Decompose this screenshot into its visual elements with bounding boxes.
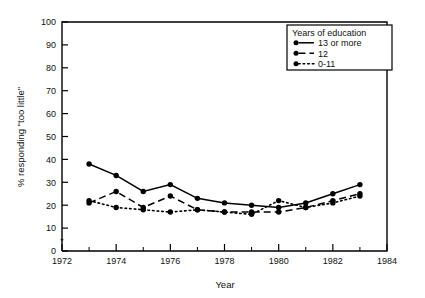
- y-tick-label: 50: [46, 132, 56, 142]
- legend-title: Years of education: [292, 28, 366, 38]
- data-point: [330, 200, 335, 205]
- data-point: [168, 193, 173, 198]
- data-point: [330, 191, 335, 196]
- y-tick-label: 20: [46, 201, 56, 211]
- data-point: [113, 189, 118, 194]
- data-point: [249, 203, 254, 208]
- x-tick-label: 1976: [160, 256, 180, 266]
- x-tick-label: 1978: [214, 256, 234, 266]
- data-point: [168, 182, 173, 187]
- data-point: [276, 209, 281, 214]
- data-point: [276, 198, 281, 203]
- y-tick-label: 90: [46, 40, 56, 50]
- x-tick-label: 1984: [377, 256, 397, 266]
- y-tick-label: 100: [41, 17, 56, 27]
- data-point: [357, 182, 362, 187]
- y-tick-label: 40: [46, 155, 56, 165]
- data-point: [303, 205, 308, 210]
- annotation-layer: *: [60, 236, 64, 246]
- data-point: [113, 173, 118, 178]
- y-tick-label: 70: [46, 86, 56, 96]
- legend-marker-icon: [294, 40, 299, 45]
- line-chart-canvas: 0102030405060708090100 19721974197619781…: [0, 0, 425, 298]
- legend-label: 12: [318, 49, 328, 59]
- legend-label: 0-11: [318, 59, 335, 69]
- data-point: [168, 209, 173, 214]
- data-point: [141, 189, 146, 194]
- data-point: [86, 161, 91, 166]
- chart-figure: 0102030405060708090100 19721974197619781…: [0, 0, 425, 298]
- y-axis-title: % responding "too little": [15, 87, 26, 187]
- y-tick-label: 0: [51, 246, 56, 256]
- data-point: [195, 207, 200, 212]
- data-point: [249, 212, 254, 217]
- y-tick-label: 30: [46, 178, 56, 188]
- x-tick-label: 1980: [269, 256, 289, 266]
- legend-label: 13 or more: [318, 38, 362, 48]
- x-tick-label: 1974: [106, 256, 126, 266]
- data-point: [222, 200, 227, 205]
- y-tick-label: 80: [46, 63, 56, 73]
- asterisk-marker-icon: *: [60, 236, 64, 246]
- y-tick-label: 60: [46, 109, 56, 119]
- x-tick-label: 1972: [52, 256, 72, 266]
- x-tick-label: 1982: [323, 256, 343, 266]
- data-point: [141, 207, 146, 212]
- data-point: [86, 198, 91, 203]
- x-axis-title: Year: [215, 279, 234, 290]
- data-point: [222, 209, 227, 214]
- legend-marker-icon: [294, 51, 299, 56]
- data-point: [113, 205, 118, 210]
- y-tick-label: 10: [46, 223, 56, 233]
- data-point: [357, 193, 362, 198]
- legend: Years of education 13 or more120-11: [287, 25, 392, 70]
- data-point: [195, 196, 200, 201]
